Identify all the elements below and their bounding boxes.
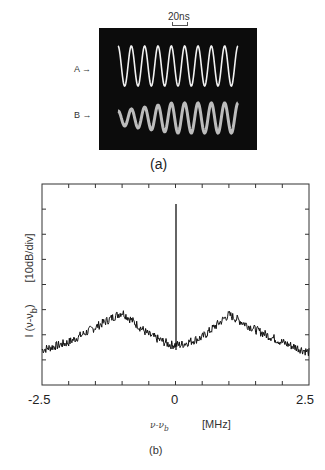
x-axis-symbol: ν-νb <box>150 420 169 433</box>
x-axis-unit: [MHz] <box>202 418 231 430</box>
y-axis-label: I (ν-νb)[10dB/div] <box>23 208 38 338</box>
xtick-zero: 0 <box>171 392 178 407</box>
y-axis-sub: b <box>29 308 39 313</box>
caption-b: (b) <box>149 444 162 456</box>
y-axis-symbol: I (ν-ν <box>23 313 35 337</box>
y-axis-unit: [10dB/div] <box>23 233 35 282</box>
xtick-left: -2.5 <box>28 392 50 407</box>
xtick-right: 2.5 <box>296 392 314 407</box>
y-axis-close: ) <box>23 304 35 308</box>
